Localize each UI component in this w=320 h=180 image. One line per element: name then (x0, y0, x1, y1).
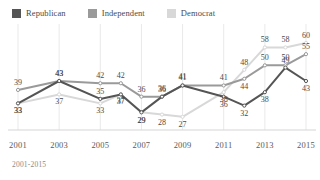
data-label: 27 (179, 120, 187, 129)
data-label: 32 (240, 109, 248, 118)
legend-swatch-icon (167, 9, 176, 18)
data-point (99, 82, 102, 85)
data-point (58, 79, 61, 82)
data-label: 43 (55, 69, 63, 78)
data-point (284, 66, 287, 69)
data-point (284, 46, 287, 49)
x-tick-2001: 2001 (9, 140, 27, 150)
data-label: 60 (302, 31, 310, 40)
legend-item-democrat[interactable]: Democrat (167, 8, 215, 18)
x-tick-2009: 2009 (174, 140, 192, 150)
legend-item-republican[interactable]: Republican (12, 8, 66, 18)
data-point (304, 53, 307, 56)
x-axis-tick-labels: 20012003200520072009201120132015 (0, 140, 320, 156)
data-point (181, 84, 184, 87)
data-label: 38 (220, 95, 228, 104)
x-tick-2007: 2007 (133, 140, 151, 150)
data-point (181, 115, 184, 118)
data-point (16, 88, 19, 91)
data-point (119, 82, 122, 85)
x-tick-2003: 2003 (50, 140, 68, 150)
data-point (99, 102, 102, 105)
legend-label: Republican (26, 8, 66, 18)
data-label: 44 (240, 82, 248, 91)
data-label: 29 (137, 116, 145, 125)
data-label: 33 (14, 106, 22, 115)
data-point (222, 91, 225, 94)
data-label: 37 (117, 97, 125, 106)
data-point (16, 102, 19, 105)
data-label: 50 (261, 53, 269, 62)
chart-legend: RepublicanIndependentDemocrat (12, 4, 237, 22)
legend-label: Democrat (181, 8, 215, 18)
data-point (243, 104, 246, 107)
data-point (263, 64, 266, 67)
legend-swatch-icon (12, 9, 21, 18)
data-label: 28 (158, 118, 166, 127)
data-point (263, 46, 266, 49)
data-label: 37 (55, 97, 63, 106)
line-chart: RepublicanIndependentDemocrat 3343353729… (0, 0, 320, 180)
data-point (160, 95, 163, 98)
data-point (304, 79, 307, 82)
data-label: 48 (240, 58, 248, 67)
x-tick-2005: 2005 (91, 140, 109, 150)
chart-caption: 2001-2015 (12, 160, 46, 169)
x-tick-2015: 2015 (297, 140, 315, 150)
plot-svg: 3343353729364136323849433943424236364141… (0, 24, 320, 138)
data-point (243, 77, 246, 80)
legend-swatch-icon (88, 9, 97, 18)
legend-item-independent[interactable]: Independent (88, 8, 145, 18)
legend-label: Independent (102, 8, 145, 18)
data-label: 58 (261, 35, 269, 44)
data-label: 33 (96, 106, 104, 115)
x-tick-2013: 2013 (256, 140, 274, 150)
data-point (222, 84, 225, 87)
data-label: 39 (14, 78, 22, 87)
data-point (99, 97, 102, 100)
data-point (243, 68, 246, 71)
data-point (140, 111, 143, 114)
data-point (160, 113, 163, 116)
data-label: 41 (220, 73, 228, 82)
data-point (140, 95, 143, 98)
x-tick-2011: 2011 (215, 140, 233, 150)
data-point (58, 93, 61, 96)
data-label: 41 (179, 73, 187, 82)
plot-area: 3343353729364136323849433943424236364141… (0, 24, 320, 138)
data-label: 42 (96, 71, 104, 80)
data-label: 36 (158, 85, 166, 94)
data-label: 55 (302, 42, 310, 51)
data-label: 43 (302, 84, 310, 93)
data-point (263, 91, 266, 94)
data-label: 42 (117, 71, 125, 80)
data-label: 35 (96, 87, 104, 96)
data-label: 50 (281, 53, 289, 62)
data-label: 36 (137, 85, 145, 94)
data-label: 58 (281, 35, 289, 44)
data-label: 38 (261, 95, 269, 104)
